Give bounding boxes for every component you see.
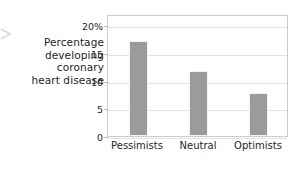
x-tick-label-neutral: Neutral (180, 140, 217, 151)
gridline-0 (108, 138, 287, 139)
y-tick-label-0: 0 (71, 132, 103, 143)
y-tick-mark-15 (104, 54, 108, 55)
plot-area (107, 15, 288, 137)
y-axis-tick-labels: 05101520% (70, 15, 103, 137)
y-tick-mark-10 (104, 82, 108, 83)
y-tick-mark-0 (104, 137, 108, 138)
y-tick-label-15: 15 (71, 49, 103, 60)
x-tick-label-pessimists: Pessimists (111, 140, 163, 151)
y-tick-label-10: 10 (71, 77, 103, 88)
bar-pessimists[interactable] (129, 41, 148, 136)
bar-neutral[interactable] (189, 71, 208, 136)
x-tick-label-optimists: Optimists (234, 140, 282, 151)
y-tick-label-5: 5 (71, 104, 103, 115)
bar-chart-figure: Percentage developing coronary heart dis… (0, 0, 291, 183)
y-tick-mark-20 (104, 26, 108, 27)
bar-optimists[interactable] (249, 93, 268, 136)
y-tick-mark-5 (104, 109, 108, 110)
gridline-20 (108, 27, 287, 28)
y-tick-label-20: 20% (71, 21, 103, 32)
